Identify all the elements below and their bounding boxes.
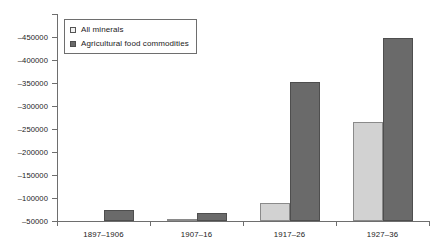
x-axis-tick [57, 221, 58, 226]
bar-group [260, 14, 320, 221]
x-axis-tick [336, 221, 337, 226]
y-axis-tick-label: –250000 [18, 125, 48, 134]
bar-agricultural-food-commodities [104, 210, 134, 222]
legend-label-all-minerals: All minerals [81, 25, 124, 34]
bar-all-minerals [353, 122, 383, 221]
chart-legend: All minerals Agricultural food commoditi… [64, 19, 197, 54]
x-axis-tick [150, 221, 151, 226]
x-axis-tick-label: 1927–36 [367, 230, 398, 239]
x-axis-tick-end [429, 221, 430, 226]
bar-agricultural-food-commodities [197, 213, 227, 221]
y-axis-tick-label: –100000 [18, 194, 48, 203]
x-axis-tick-label: 1917–26 [274, 230, 305, 239]
legend-item-agricultural-food-commodities: Agricultural food commodities [70, 38, 189, 49]
bar-agricultural-food-commodities [290, 82, 320, 221]
legend-swatch-icon-agricultural-food-commodities [70, 41, 76, 47]
y-axis-tick-label: –200000 [18, 148, 48, 157]
y-axis-tick-label: –350000 [18, 79, 48, 88]
legend-item-all-minerals: All minerals [70, 24, 189, 35]
bar-agricultural-food-commodities [383, 38, 413, 221]
y-axis-tick-label: –300000 [18, 102, 48, 111]
x-axis-tick [243, 221, 244, 226]
bar-all-minerals [260, 203, 290, 221]
legend-swatch-icon-all-minerals [70, 27, 76, 33]
y-axis-tick-label: –400000 [18, 56, 48, 65]
y-axis-tick-label: –150000 [18, 171, 48, 180]
x-axis-tick-label: 1907–16 [181, 230, 212, 239]
bar-chart: –50000–100000–150000–200000–250000–30000… [0, 0, 433, 251]
bar-all-minerals [167, 219, 197, 221]
bar-group [353, 14, 413, 221]
y-axis-tick-label: –450000 [18, 33, 48, 42]
y-axis-tick-label: –50000 [22, 217, 48, 226]
x-axis-tick-label: 1897–1906 [83, 230, 123, 239]
legend-label-agricultural-food-commodities: Agricultural food commodities [81, 39, 189, 48]
